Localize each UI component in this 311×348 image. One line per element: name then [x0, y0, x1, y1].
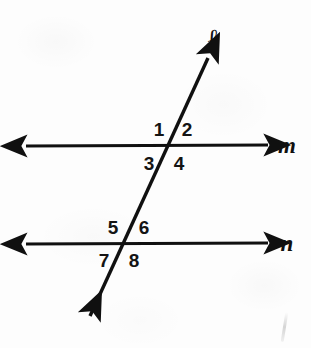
angle-label-7: 7	[99, 251, 110, 270]
angle-label-4: 4	[174, 154, 185, 173]
line-l-transversal	[90, 58, 208, 316]
line-label-n: n	[281, 232, 294, 255]
line-label-m: m	[278, 134, 296, 157]
angle-label-3: 3	[144, 154, 155, 173]
angle-label-5: 5	[108, 218, 119, 237]
angle-label-1: 1	[154, 120, 165, 139]
line-n	[26, 243, 268, 244]
angle-label-8: 8	[129, 251, 140, 270]
geometry-figure: m n ℓ 1 2 3 4 5 6 7 8	[0, 0, 311, 348]
line-m	[26, 145, 268, 146]
angle-label-6: 6	[139, 218, 150, 237]
angle-label-2: 2	[182, 120, 193, 139]
geometry-canvas	[0, 0, 311, 348]
